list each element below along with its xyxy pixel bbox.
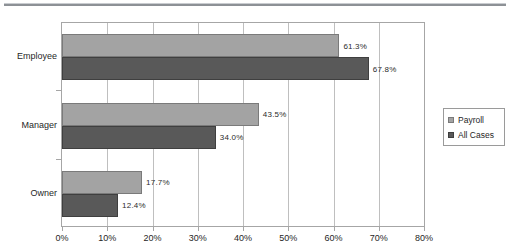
- bar-all-cases-owner: [62, 194, 118, 217]
- legend-label: All Cases: [458, 130, 494, 140]
- plot-area: 61.3%67.8%43.5%34.0%17.7%12.4%: [61, 22, 425, 227]
- bar-all-cases-employee: [62, 57, 369, 80]
- bar-value-label: 34.0%: [216, 133, 244, 142]
- value-axis-tick: [62, 227, 63, 231]
- bar-row: 67.8%: [62, 57, 424, 80]
- value-axis-label: 80%: [415, 233, 433, 243]
- value-axis-label: 10%: [98, 233, 116, 243]
- value-axis-label: 40%: [234, 233, 252, 243]
- value-axis-label: 50%: [279, 233, 297, 243]
- bar-payroll-employee: [62, 34, 339, 57]
- legend-swatch-icon: [448, 117, 454, 123]
- value-axis-tick: [198, 227, 199, 231]
- value-axis-tick: [243, 227, 244, 231]
- bar-row: 34.0%: [62, 126, 424, 149]
- bar-row: 61.3%: [62, 34, 424, 57]
- value-axis-label: 70%: [370, 233, 388, 243]
- bar-row: 43.5%: [62, 103, 424, 126]
- value-axis-label: 20%: [143, 233, 161, 243]
- value-axis-tick: [107, 227, 108, 231]
- bar-chart-figure: EmployeeManagerOwner 61.3%67.8%43.5%34.0…: [0, 0, 509, 252]
- bar-all-cases-manager: [62, 126, 216, 149]
- value-axis: 0%10%20%30%40%50%60%70%80%: [61, 227, 425, 252]
- legend-item-payroll[interactable]: Payroll: [448, 113, 504, 127]
- value-axis-tick: [153, 227, 154, 231]
- bar-value-label: 12.4%: [118, 201, 146, 210]
- chart-legend: PayrollAll Cases: [443, 108, 505, 146]
- value-axis-label: 60%: [324, 233, 342, 243]
- bar-row: 17.7%: [62, 171, 424, 194]
- category-label-employee: Employee: [1, 51, 57, 61]
- bar-value-label: 17.7%: [142, 178, 170, 187]
- category-label-owner: Owner: [1, 188, 57, 198]
- bar-value-label: 43.5%: [259, 110, 287, 119]
- bar-payroll-owner: [62, 171, 142, 194]
- bar-value-label: 67.8%: [369, 64, 397, 73]
- bar-value-label: 61.3%: [339, 41, 367, 50]
- category-label-manager: Manager: [1, 120, 57, 130]
- bar-row: 12.4%: [62, 194, 424, 217]
- bar-payroll-manager: [62, 103, 259, 126]
- value-axis-tick: [379, 227, 380, 231]
- value-axis-label: 0%: [55, 233, 68, 243]
- legend-item-all-cases[interactable]: All Cases: [448, 128, 504, 142]
- value-axis-label: 30%: [189, 233, 207, 243]
- legend-label: Payroll: [458, 115, 484, 125]
- value-axis-tick: [288, 227, 289, 231]
- value-axis-tick: [334, 227, 335, 231]
- category-axis: EmployeeManagerOwner: [0, 22, 57, 227]
- legend-swatch-icon: [448, 132, 454, 138]
- value-axis-tick: [424, 227, 425, 231]
